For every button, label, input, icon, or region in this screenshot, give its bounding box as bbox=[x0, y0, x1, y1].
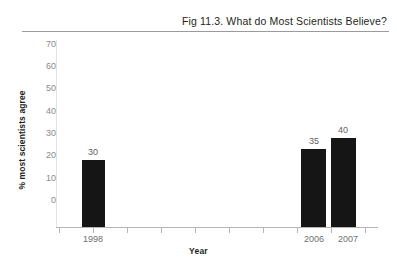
y-axis-line bbox=[56, 40, 57, 228]
y-tick-label-0: 0 bbox=[32, 196, 56, 205]
y-tick-label-70: 70 bbox=[32, 40, 56, 49]
x-tick-mark bbox=[93, 228, 94, 233]
bar-1998 bbox=[82, 160, 105, 227]
bar-value-2006: 35 bbox=[294, 136, 334, 146]
y-axis-label: % most scientists agree bbox=[17, 75, 27, 205]
x-tick-mark bbox=[229, 228, 230, 233]
bar-value-2007: 40 bbox=[323, 125, 363, 135]
x-tick-mark bbox=[365, 228, 366, 233]
y-tick-label-30: 30 bbox=[32, 129, 56, 138]
bar-2007 bbox=[331, 138, 356, 227]
y-tick-label-50: 50 bbox=[32, 84, 56, 93]
x-tick-mark bbox=[195, 228, 196, 233]
x-tick-mark bbox=[59, 228, 60, 233]
bar-value-1998: 30 bbox=[73, 147, 113, 157]
y-tick-label-60: 60 bbox=[32, 62, 56, 71]
y-tick-label-40: 40 bbox=[32, 107, 56, 116]
x-tick-mark bbox=[161, 228, 162, 233]
y-tick-label-10: 10 bbox=[32, 174, 56, 183]
chart-plot-area: % most scientists agree 70 60 50 40 30 2… bbox=[0, 0, 397, 264]
bar-2006 bbox=[301, 149, 326, 227]
x-tick-mark bbox=[297, 228, 298, 233]
x-tick-label-1998: 1998 bbox=[73, 234, 113, 244]
y-tick-label-20: 20 bbox=[32, 151, 56, 160]
x-axis-label: Year bbox=[0, 246, 397, 256]
x-axis-line bbox=[56, 227, 378, 228]
x-tick-label-2007: 2007 bbox=[328, 234, 368, 244]
x-tick-mark bbox=[263, 228, 264, 233]
figure-container: Fig 11.3. What do Most Scientists Believ… bbox=[0, 0, 397, 264]
x-tick-mark bbox=[331, 228, 332, 233]
x-tick-mark bbox=[127, 228, 128, 233]
